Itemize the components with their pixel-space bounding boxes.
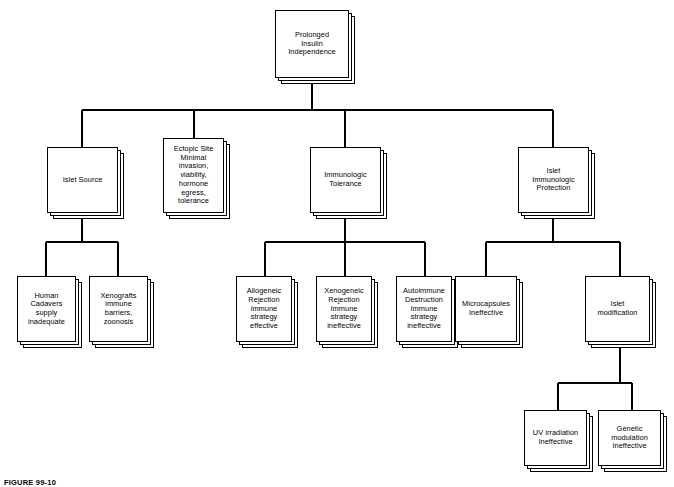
node-label: Allogeneic Rejection immune strategy eff…	[245, 287, 284, 331]
box-face: Islet Source	[47, 147, 118, 213]
node-label: Genetic modulation Ineffective	[609, 425, 650, 451]
node-label: Xenogeneic Rejection Immune strategy ine…	[322, 287, 366, 331]
box-face: Prolonged Insulin Independence	[275, 10, 349, 78]
box-face: Immunologic Tolerance	[310, 147, 381, 213]
node-label: Microcapsules Ineffective	[460, 300, 512, 317]
box-face: Autoimmune Destruction Immune strategy i…	[396, 276, 452, 342]
box-face: Microcapsules Ineffective	[455, 276, 517, 342]
figure-caption: FIGURE 99-10	[4, 478, 56, 487]
node-islet-immunologic-protection[interactable]: Islet Immunologic Protection	[518, 147, 595, 219]
node-label: Ectopic Site Minimal invasion, viability…	[172, 145, 216, 206]
figure-canvas: Prolonged Insulin Independence Islet Sou…	[0, 0, 674, 487]
node-label: Prolonged Insulin Independence	[286, 31, 337, 57]
box-face: Allogeneic Rejection immune strategy eff…	[236, 276, 292, 342]
node-label: UV irradiation Ineffective	[531, 429, 580, 446]
box-face: Xenografts immune barriers, zoonosis	[89, 276, 148, 342]
node-label: Human Cadavers supply inadequate	[26, 292, 67, 327]
box-face: Genetic modulation Ineffective	[598, 410, 661, 466]
box-face: Islet modification	[585, 276, 650, 342]
node-prolonged-insulin-independence[interactable]: Prolonged Insulin Independence	[275, 10, 355, 84]
node-uv-irradiation[interactable]: UV irradiation Ineffective	[524, 410, 593, 472]
node-label: Islet modification	[595, 300, 639, 317]
node-allogeneic-rejection[interactable]: Allogeneic Rejection immune strategy eff…	[236, 276, 298, 348]
node-label: Autoimmune Destruction Immune strategy i…	[401, 287, 447, 331]
node-xenogeneic-rejection[interactable]: Xenogeneic Rejection Immune strategy ine…	[316, 276, 378, 348]
box-face: Islet Immunologic Protection	[518, 147, 589, 213]
node-label: Islet Source	[61, 176, 105, 185]
node-islet-modification[interactable]: Islet modification	[585, 276, 656, 348]
box-face: UV irradiation Ineffective	[524, 410, 587, 466]
node-autoimmune-destruction[interactable]: Autoimmune Destruction Immune strategy i…	[396, 276, 458, 348]
box-face: Xenogeneic Rejection Immune strategy ine…	[316, 276, 372, 342]
box-face: Human Cadavers supply inadequate	[17, 276, 76, 342]
node-label: Islet Immunologic Protection	[530, 167, 576, 193]
node-microcapsules[interactable]: Microcapsules Ineffective	[455, 276, 523, 348]
node-immunologic-tolerance[interactable]: Immunologic Tolerance	[310, 147, 387, 219]
node-label: Immunologic Tolerance	[322, 171, 368, 188]
node-label: Xenografts immune barriers, zoonosis	[98, 292, 138, 327]
node-xenografts[interactable]: Xenografts immune barriers, zoonosis	[89, 276, 154, 348]
node-ectopic-site[interactable]: Ectopic Site Minimal invasion, viability…	[163, 138, 230, 219]
box-face: Ectopic Site Minimal invasion, viability…	[163, 138, 224, 213]
node-islet-source[interactable]: Islet Source	[47, 147, 124, 219]
node-genetic-modulation[interactable]: Genetic modulation Ineffective	[598, 410, 667, 472]
node-human-cadavers[interactable]: Human Cadavers supply inadequate	[17, 276, 82, 348]
